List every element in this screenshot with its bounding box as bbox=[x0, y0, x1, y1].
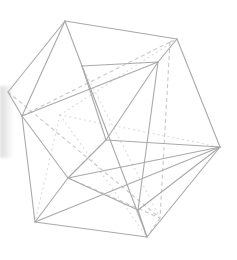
figure-canvas bbox=[0, 0, 237, 260]
edge-L2-H1 bbox=[22, 42, 170, 116]
edge-F1-BR bbox=[82, 66, 147, 237]
faded-side-panel-edge bbox=[0, 86, 14, 158]
icosahedron-wireframe-icon bbox=[0, 0, 237, 260]
edge-R-BR bbox=[147, 147, 220, 237]
edge-R-F5 bbox=[138, 147, 220, 210]
edge-F4-F5 bbox=[68, 178, 138, 210]
edge-F1-F2 bbox=[82, 62, 158, 66]
edge-L-T bbox=[8, 21, 65, 92]
edge-R-F4 bbox=[68, 147, 220, 178]
edge-H3-UR bbox=[60, 39, 177, 115]
edge-T-UR bbox=[65, 21, 177, 39]
edge-F2-F3 bbox=[106, 62, 158, 140]
edge-UR-F2 bbox=[158, 39, 177, 62]
edge-UR-R bbox=[177, 39, 220, 147]
edge-BL-L2 bbox=[22, 116, 35, 222]
edge-F1-H2 bbox=[82, 66, 160, 218]
edge-F1-F3 bbox=[82, 66, 106, 140]
edge-F2-F5 bbox=[138, 62, 158, 210]
edge-T-F1 bbox=[65, 21, 82, 66]
edge-L-H2 bbox=[8, 92, 160, 218]
edge-F5-BR bbox=[138, 210, 147, 237]
edge-BR-BL bbox=[35, 222, 147, 237]
